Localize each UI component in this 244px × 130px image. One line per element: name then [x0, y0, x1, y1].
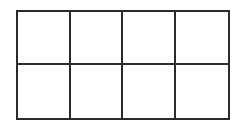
grid-cell-r1-c2: [71, 12, 124, 65]
grid-cell-r2-c3: [123, 65, 176, 118]
grid-cell-r2-c1: [18, 65, 71, 118]
grid-cell-r2-c4: [176, 65, 229, 118]
grid-cell-r1-c3: [123, 12, 176, 65]
grid-diagram: [16, 10, 230, 120]
grid-cell-r1-c4: [176, 12, 229, 65]
grid-cell-r1-c1: [18, 12, 71, 65]
grid-cell-r2-c2: [71, 65, 124, 118]
